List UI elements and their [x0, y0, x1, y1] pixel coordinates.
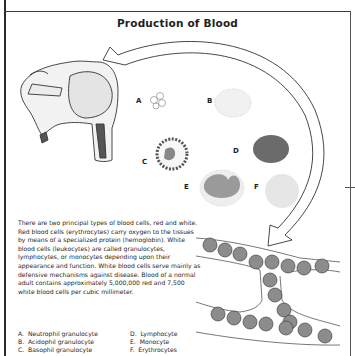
bone-icon — [21, 61, 118, 161]
red-blood-cells — [203, 238, 332, 343]
cell-f-erythrocyte — [265, 174, 299, 208]
cell-a-neutrophil — [151, 93, 166, 110]
legend-item-d: D. Lymphocyte — [130, 330, 208, 338]
cell-c-basophil — [157, 139, 187, 169]
cell-label-b: B — [207, 97, 212, 105]
legend-item-a: A. Neutrophil granulocyte — [18, 330, 130, 338]
legend-item-b: B. Acidophil granulocyte — [18, 338, 130, 346]
cell-label-d: D — [233, 147, 239, 155]
blood-production-illustration — [0, 0, 355, 356]
legend-item-e: E. Monocyte — [130, 338, 208, 346]
legend-item-c: C. Basophil granulocyte — [18, 346, 130, 354]
legend-item-f: F. Erythrocytes — [130, 346, 208, 354]
cell-legend: A. Neutrophil granulocyte D. Lymphocyte … — [18, 330, 208, 355]
cell-label-e: E — [184, 183, 189, 191]
cell-d-lymphocyte — [253, 135, 289, 163]
cell-label-f: F — [254, 183, 259, 191]
cell-label-a: A — [136, 97, 141, 105]
cell-b-acidophil — [215, 89, 251, 117]
cell-e-monocyte — [200, 170, 244, 206]
body-paragraph: There are two principal types of blood c… — [18, 219, 203, 296]
curved-arrow-icon — [103, 41, 324, 246]
cell-label-c: C — [142, 158, 147, 166]
